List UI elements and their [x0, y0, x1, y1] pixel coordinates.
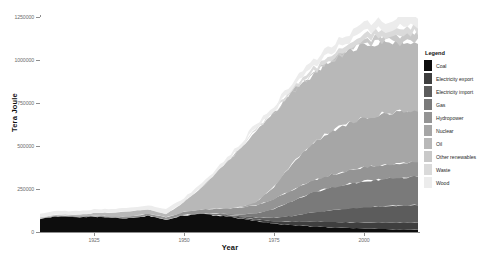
legend-swatch-icon — [424, 86, 432, 97]
y-tick-label: 1250000 — [15, 14, 35, 20]
legend: Legend CoalElectricity exportElectricity… — [424, 50, 486, 189]
legend-item-label: Electricity export — [436, 76, 473, 82]
legend-item-label: Coal — [436, 63, 446, 69]
legend-item-wood[interactable]: Wood — [424, 176, 486, 189]
stacked-area-series-group — [40, 17, 418, 232]
x-tick-mark — [184, 232, 185, 236]
y-tick-mark — [36, 232, 40, 233]
legend-item-label: Waste — [436, 167, 450, 173]
legend-item-label: Wood — [436, 180, 449, 186]
legend-swatch-icon — [424, 60, 432, 71]
legend-item-gas[interactable]: Gas — [424, 98, 486, 111]
legend-swatch-icon — [424, 177, 432, 188]
x-tick-mark — [364, 232, 365, 236]
y-tick-label: 250000 — [17, 186, 34, 192]
legend-item-other-renewables[interactable]: Other renewables — [424, 150, 486, 163]
y-tick-mark — [36, 146, 40, 147]
y-tick-label: 500000 — [17, 143, 34, 149]
legend-item-label: Gas — [436, 102, 445, 108]
y-tick-label: 1000000 — [15, 57, 35, 63]
legend-item-coal[interactable]: Coal — [424, 59, 486, 72]
legend-swatch-icon — [424, 125, 432, 136]
legend-item-label: Electricity import — [436, 89, 473, 95]
legend-item-waste[interactable]: Waste — [424, 163, 486, 176]
legend-items: CoalElectricity exportElectricity import… — [424, 59, 486, 189]
stacked-area-chart-figure: Tera Joule 02500005000007500001000000125… — [0, 0, 487, 262]
legend-swatch-icon — [424, 99, 432, 110]
x-tick-mark — [94, 232, 95, 236]
legend-item-label: Oil — [436, 141, 442, 147]
legend-item-nuclear[interactable]: Nuclear — [424, 124, 486, 137]
legend-item-oil[interactable]: Oil — [424, 137, 486, 150]
legend-title: Legend — [424, 50, 486, 56]
y-tick-mark — [36, 103, 40, 104]
y-tick-label: 750000 — [17, 100, 34, 106]
y-axis-title: Tera Joule — [10, 73, 19, 153]
legend-item-electricity-import[interactable]: Electricity import — [424, 85, 486, 98]
legend-swatch-icon — [424, 138, 432, 149]
y-tick-mark — [36, 17, 40, 18]
legend-swatch-icon — [424, 164, 432, 175]
x-tick-mark — [274, 232, 275, 236]
legend-item-hydropower[interactable]: Hydropower — [424, 111, 486, 124]
y-tick-label: 0 — [31, 229, 34, 235]
x-axis-title: Year — [40, 243, 420, 252]
x-axis-line — [38, 232, 420, 233]
legend-item-label: Hydropower — [436, 115, 463, 121]
legend-swatch-icon — [424, 73, 432, 84]
legend-item-label: Nuclear — [436, 128, 454, 134]
legend-swatch-icon — [424, 112, 432, 123]
y-tick-mark — [36, 189, 40, 190]
y-tick-mark — [36, 60, 40, 61]
legend-item-electricity-export[interactable]: Electricity export — [424, 72, 486, 85]
legend-item-label: Other renewables — [436, 154, 476, 160]
legend-swatch-icon — [424, 151, 432, 162]
